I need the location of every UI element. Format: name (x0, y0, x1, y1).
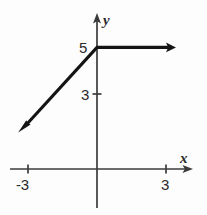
y-axis-group (93, 13, 101, 208)
graph-figure: 5 3 -3 3 y x (0, 0, 207, 215)
coordinate-plane-svg (0, 0, 207, 215)
y-axis-tick-label-5: 5 (79, 40, 87, 55)
y-axis-tick-label-3: 3 (81, 87, 89, 102)
x-axis-tick-label-neg-3: -3 (16, 177, 29, 192)
x-axis-tick-label-3: 3 (161, 177, 169, 192)
x-axis-label: x (180, 151, 188, 166)
y-axis-label: y (103, 13, 110, 28)
